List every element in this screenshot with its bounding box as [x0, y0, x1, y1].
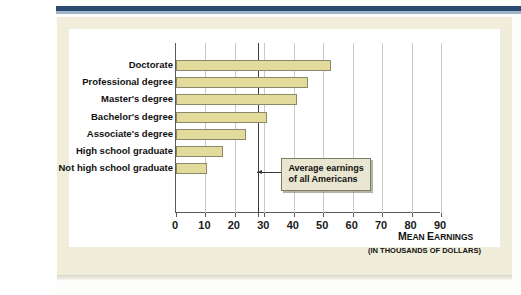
bar-professional-degree: [176, 77, 308, 88]
callout-line-2: of all Americans: [288, 174, 363, 185]
x-axis-title-arnings: ARNINGS: [434, 232, 473, 242]
x-tick-label-30: 30: [257, 219, 269, 231]
x-tick-label-10: 10: [198, 219, 210, 231]
category-label-high-school-graduate: High school graduate: [76, 145, 173, 156]
tick-90: [441, 213, 442, 217]
tick-70: [382, 213, 383, 217]
gridline-90: [441, 43, 442, 213]
bar-high-school-graduate: [176, 146, 223, 157]
bar-bachelor-s-degree: [176, 112, 267, 123]
tick-20: [235, 213, 236, 217]
bar-master-s-degree: [176, 94, 297, 105]
category-axis: DoctorateProfessional degreeMaster's deg…: [0, 43, 173, 213]
x-axis-subtitle: (IN THOUSANDS OF DOLLARS): [368, 246, 481, 255]
callout-arrow-icon: [257, 172, 281, 173]
bar-not-high-school-graduate: [176, 163, 207, 174]
average-earnings-callout: Average earnings of all Americans: [281, 158, 370, 191]
panel-shadow: [57, 275, 512, 281]
tick-10: [205, 213, 206, 217]
category-label-not-high-school-graduate: Not high school graduate: [58, 162, 173, 173]
bar-associate-s-degree: [176, 129, 246, 140]
figure-page: DoctorateProfessional degreeMaster's deg…: [0, 0, 521, 295]
tick-40: [294, 213, 295, 217]
x-tick-label-60: 60: [346, 219, 358, 231]
x-axis-title-ean: EAN: [407, 232, 427, 242]
tick-50: [323, 213, 324, 217]
x-tick-label-0: 0: [172, 219, 178, 231]
tick-80: [412, 213, 413, 217]
tick-0: [176, 213, 177, 217]
callout-line-1: Average earnings: [288, 163, 363, 174]
tick-average: [258, 213, 259, 217]
x-tick-label-70: 70: [375, 219, 387, 231]
x-tick-label-80: 80: [404, 219, 416, 231]
top-band-light: [55, 11, 521, 14]
tick-30: [264, 213, 265, 217]
tick-60: [353, 213, 354, 217]
x-tick-label-20: 20: [228, 219, 240, 231]
x-tick-label-90: 90: [434, 219, 446, 231]
category-label-doctorate: Doctorate: [129, 59, 173, 70]
category-label-bachelor-s-degree: Bachelor's degree: [91, 111, 173, 122]
category-label-master-s-degree: Master's degree: [101, 93, 173, 104]
x-axis-title-m: M: [398, 230, 407, 242]
x-tick-label-40: 40: [287, 219, 299, 231]
x-tick-label-50: 50: [316, 219, 328, 231]
category-label-professional-degree: Professional degree: [82, 76, 173, 87]
bar-doctorate: [176, 60, 331, 71]
x-axis-title: MEAN EARNINGS: [398, 230, 473, 242]
category-label-associate-s-degree: Associate's degree: [87, 128, 173, 139]
